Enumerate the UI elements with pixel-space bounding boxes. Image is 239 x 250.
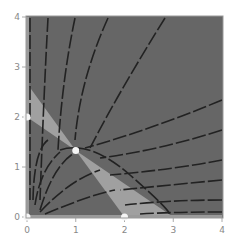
y-tick-label: 1 (14, 162, 20, 172)
equilibrium-point (72, 147, 79, 154)
x-tick-label: 3 (170, 225, 176, 235)
y-tick-label: 3 (14, 62, 20, 72)
y-tick-label: 0 (14, 212, 20, 222)
y-tick-label: 4 (14, 12, 20, 22)
x-tick-label: 4 (219, 225, 225, 235)
equilibrium-point (24, 114, 31, 121)
x-tick-label: 0 (24, 225, 30, 235)
equilibrium-point (121, 214, 128, 221)
x-tick-label: 1 (73, 225, 79, 235)
y-tick-label: 2 (14, 112, 20, 122)
equilibrium-point (24, 214, 31, 221)
x-tick-label: 2 (122, 225, 128, 235)
phase-portrait-chart: 0123401234 (0, 0, 239, 250)
